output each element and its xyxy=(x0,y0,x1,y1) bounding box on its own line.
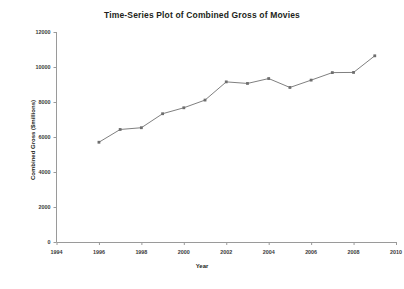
data-point xyxy=(225,80,228,83)
plot-area xyxy=(0,0,404,289)
x-axis-tick-label: 2002 xyxy=(220,249,232,255)
data-point xyxy=(289,86,292,89)
x-axis-tick-label: 2010 xyxy=(390,249,402,255)
y-axis-title: Combined Gross ($millions) xyxy=(30,80,36,200)
y-axis-tick-label: 4000 xyxy=(0,169,51,175)
data-series-line xyxy=(99,56,375,142)
data-point xyxy=(140,126,143,129)
data-point xyxy=(267,77,270,80)
data-point xyxy=(98,141,101,144)
y-axis-tick-label: 2000 xyxy=(0,204,51,210)
y-axis-tick-label: 10000 xyxy=(0,64,51,70)
x-axis-tick-label: 1994 xyxy=(51,249,63,255)
y-axis-tick-label: 0 xyxy=(0,239,51,245)
y-axis-tick-label: 8000 xyxy=(0,99,51,105)
x-axis-tick-label: 2000 xyxy=(178,249,190,255)
data-point xyxy=(310,79,313,82)
x-axis-tick-label: 2004 xyxy=(263,249,275,255)
data-point xyxy=(352,71,355,74)
x-axis-title: Year xyxy=(0,263,404,269)
x-axis-tick-label: 2006 xyxy=(305,249,317,255)
x-axis-tick-label: 2008 xyxy=(348,249,360,255)
data-point xyxy=(204,99,207,102)
x-axis-tick-label: 1996 xyxy=(93,249,105,255)
y-axis-tick-label: 6000 xyxy=(0,134,51,140)
data-point xyxy=(119,128,122,131)
data-point xyxy=(246,82,249,85)
data-point xyxy=(161,112,164,115)
data-point xyxy=(373,54,376,57)
x-axis-tick-label: 1998 xyxy=(135,249,147,255)
y-axis-tick-label: 12000 xyxy=(0,29,51,35)
data-point xyxy=(182,106,185,109)
data-point-markers xyxy=(98,54,377,143)
data-point xyxy=(331,71,334,74)
chart-figure: Time-Series Plot of Combined Gross of Mo… xyxy=(0,0,404,289)
